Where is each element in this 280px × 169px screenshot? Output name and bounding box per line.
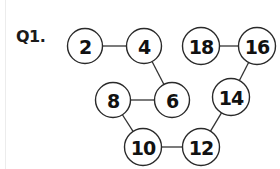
- nodes-group: 24181686141012: [68, 28, 276, 166]
- node-14: 14: [213, 79, 250, 116]
- node-value: 12: [189, 137, 213, 159]
- node-value: 6: [166, 90, 179, 112]
- node-value: 2: [79, 36, 91, 58]
- edge-8-10: [122, 115, 133, 132]
- edge-4-6: [152, 62, 164, 85]
- node-2: 2: [68, 29, 103, 64]
- node-8: 8: [96, 83, 131, 118]
- node-value: 18: [189, 36, 214, 58]
- node-value: 10: [131, 137, 156, 159]
- edge-12-14: [211, 113, 222, 131]
- node-6: 6: [155, 83, 190, 118]
- node-value: 8: [107, 90, 120, 112]
- edge-14-16: [239, 62, 248, 80]
- node-value: 16: [245, 36, 270, 58]
- node-16: 16: [239, 28, 276, 65]
- node-18: 18: [183, 28, 220, 65]
- node-value: 4: [138, 36, 151, 58]
- node-4: 4: [127, 29, 162, 64]
- node-10: 10: [125, 129, 162, 166]
- node-12: 12: [183, 129, 220, 166]
- number-chain-diagram: 24181686141012: [0, 0, 280, 169]
- node-value: 14: [219, 87, 244, 109]
